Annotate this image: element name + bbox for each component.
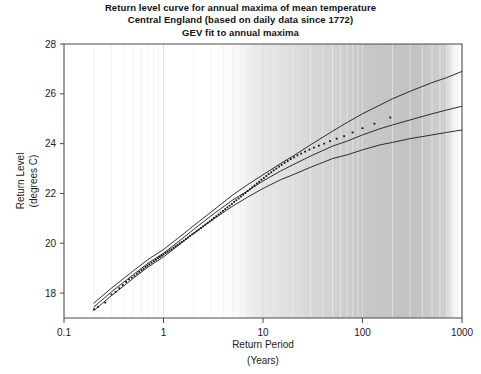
data-point: [261, 179, 263, 181]
y-axis-tick-label: 28: [45, 39, 57, 50]
data-point: [189, 235, 191, 237]
data-point: [220, 212, 222, 214]
data-point: [170, 248, 172, 250]
data-point: [155, 259, 157, 261]
data-point: [207, 222, 209, 224]
data-point: [218, 213, 220, 215]
data-point: [238, 198, 240, 200]
data-point: [290, 158, 292, 160]
data-point: [179, 243, 181, 245]
data-point: [374, 123, 376, 125]
data-point: [343, 135, 345, 137]
data-point: [318, 145, 320, 147]
data-point: [273, 169, 275, 171]
data-point: [125, 281, 127, 283]
data-point: [138, 271, 140, 273]
data-point: [118, 287, 120, 289]
data-point: [128, 278, 130, 280]
data-point: [389, 117, 391, 119]
data-point: [352, 132, 354, 134]
data-point: [157, 257, 159, 259]
data-point: [268, 173, 270, 175]
data-point: [141, 269, 143, 271]
data-point: [336, 138, 338, 140]
data-point: [196, 230, 198, 232]
data-point: [304, 151, 306, 153]
data-point: [153, 260, 155, 262]
data-point: [183, 240, 185, 242]
data-point: [163, 254, 165, 256]
data-point: [275, 168, 277, 170]
data-point: [211, 219, 213, 221]
data-point: [284, 162, 286, 164]
data-point: [148, 263, 150, 265]
x-axis-tick-label: 1: [161, 327, 167, 338]
data-point: [245, 192, 247, 194]
data-point: [167, 251, 169, 253]
data-point: [191, 233, 193, 235]
y-axis-tick-label: 24: [45, 138, 57, 149]
y-axis-tick-label: 18: [45, 288, 57, 299]
data-point: [215, 215, 217, 217]
data-point: [213, 217, 215, 219]
data-point: [145, 266, 147, 268]
data-point: [242, 194, 244, 196]
y-axis-tick-label: 22: [45, 188, 57, 199]
data-point: [93, 308, 95, 310]
data-point: [362, 127, 364, 129]
data-point: [200, 227, 202, 229]
x-axis-tick-label: 1000: [451, 327, 474, 338]
data-point: [209, 220, 211, 222]
data-point: [204, 224, 206, 226]
data-point: [254, 185, 256, 187]
data-point: [185, 238, 187, 240]
data-point: [235, 199, 237, 201]
chart-page: Return level curve for annual maxima of …: [0, 0, 481, 374]
data-point: [136, 273, 138, 275]
data-point: [161, 255, 163, 257]
data-point: [233, 201, 235, 203]
data-point: [222, 210, 224, 212]
data-point: [270, 171, 272, 173]
data-point: [229, 205, 231, 207]
data-point: [265, 175, 267, 177]
data-point: [165, 252, 167, 254]
data-point: [227, 207, 229, 209]
x-axis-tick-label: 0.1: [57, 327, 71, 338]
data-point: [134, 275, 136, 277]
data-point: [263, 177, 265, 179]
return-level-plot: 1820222426280.11101001000 Return Period …: [0, 0, 481, 374]
data-point: [181, 241, 183, 243]
data-point: [278, 166, 280, 168]
data-point: [177, 244, 179, 246]
y-axis-tick-label: 26: [45, 88, 57, 99]
data-point: [111, 293, 113, 295]
data-point: [187, 237, 189, 239]
data-point: [104, 302, 106, 304]
data-point: [173, 247, 175, 249]
y-axis-title-line1: Return Level: [15, 153, 26, 210]
x-axis-tick-label: 100: [354, 327, 371, 338]
x-axis-units: (Years): [247, 355, 279, 366]
data-point: [300, 153, 302, 155]
y-axis-title-line2: (degrees C): [28, 155, 39, 208]
data-point: [281, 164, 283, 166]
data-point: [240, 196, 242, 198]
data-point: [251, 186, 253, 188]
data-point: [202, 225, 204, 227]
x-axis-title: Return Period: [232, 339, 294, 350]
data-point: [329, 140, 331, 142]
data-point: [297, 154, 299, 156]
data-point: [147, 265, 149, 267]
data-point: [287, 160, 289, 162]
data-point: [258, 181, 260, 183]
data-point: [323, 143, 325, 145]
data-point: [159, 256, 161, 258]
data-point: [247, 190, 249, 192]
data-point: [194, 232, 196, 234]
data-point: [198, 229, 200, 231]
data-point: [169, 250, 171, 252]
data-point: [256, 183, 258, 185]
x-axis-tick-label: 10: [257, 327, 269, 338]
data-point: [231, 203, 233, 205]
